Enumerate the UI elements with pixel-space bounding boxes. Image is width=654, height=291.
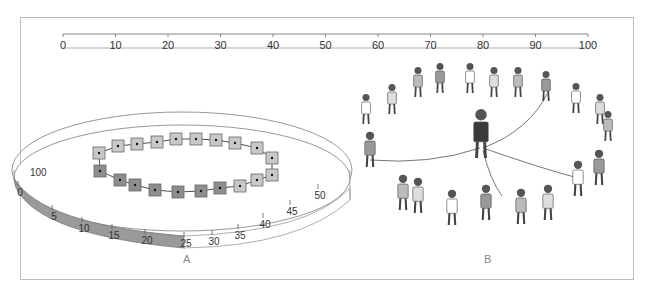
ring-tick-label: 40 (259, 219, 271, 230)
ring-tick-label: 25 (180, 238, 192, 249)
ring-tick-label: 10 (78, 223, 90, 234)
number-line: 0102030405060708090100 (60, 34, 597, 51)
ring-tick-label: 50 (314, 190, 326, 201)
number-line-tick-label: 20 (162, 39, 174, 51)
number-line-tick-label: 30 (214, 39, 226, 51)
ring-diagram: 05101520253035404550 100 (12, 112, 352, 249)
ring-tick-label: 35 (234, 230, 246, 241)
number-line-tick-label: 10 (109, 39, 121, 51)
number-line-tick-label: 40 (267, 39, 279, 51)
child-figure (474, 109, 488, 158)
child-figure (596, 94, 605, 124)
child-figure (490, 67, 499, 97)
child-figure (436, 63, 445, 93)
figure-canvas: 0102030405060708090100 05101520253035404… (0, 0, 654, 291)
number-line-tick-label: 70 (424, 39, 436, 51)
child-figure (516, 189, 526, 224)
ring-outer-label: 100 (30, 167, 47, 178)
number-line-tick-label: 100 (579, 39, 597, 51)
ring-tick-label: 45 (286, 206, 298, 217)
ring-tick-label: 15 (108, 230, 120, 241)
child-figure (514, 67, 523, 97)
child-figure (543, 185, 553, 220)
child-figure (604, 111, 613, 141)
ring-tick-label: 30 (208, 236, 220, 247)
child-figure (572, 83, 581, 113)
ring-tick-label: 20 (141, 235, 153, 246)
child-figure (362, 94, 371, 124)
child-figure (466, 63, 475, 93)
number-line-tick-label: 50 (319, 39, 331, 51)
ring-tick-label: 5 (51, 211, 57, 222)
ring-tick-label: 0 (17, 187, 23, 198)
child-figure (365, 132, 375, 167)
child-figure (594, 150, 604, 185)
child-figure (388, 84, 397, 114)
number-line-tick-label: 60 (372, 39, 384, 51)
child-figure (447, 190, 457, 225)
number-line-tick-label: 80 (477, 39, 489, 51)
child-figure (573, 161, 583, 196)
number-line-tick-label: 90 (529, 39, 541, 51)
panel-b-label: B (484, 253, 491, 265)
child-figure (398, 175, 408, 210)
children-circle-illustration (362, 63, 613, 225)
child-figure (481, 185, 491, 220)
number-line-tick-label: 0 (60, 39, 66, 51)
panel-a-label: A (183, 253, 190, 265)
child-figure (413, 178, 423, 213)
child-figure (414, 67, 423, 97)
